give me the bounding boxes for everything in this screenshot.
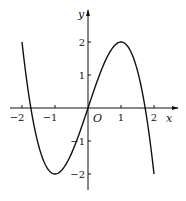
x-axis-label: x: [166, 112, 173, 125]
y-axis-label: y: [77, 8, 85, 21]
x-tick-label: −2: [10, 112, 25, 123]
y-tick-label: 1: [79, 70, 85, 81]
y-tick-label: 2: [79, 37, 85, 48]
x-tick-label: 2: [151, 112, 157, 123]
y-tick-label: −2: [70, 169, 85, 180]
chart-canvas: −2−11221−1−2 x y O: [0, 0, 186, 201]
origin-label: O: [93, 112, 102, 125]
x-tick-label: 1: [118, 112, 124, 123]
x-tick-label: −1: [43, 112, 58, 123]
